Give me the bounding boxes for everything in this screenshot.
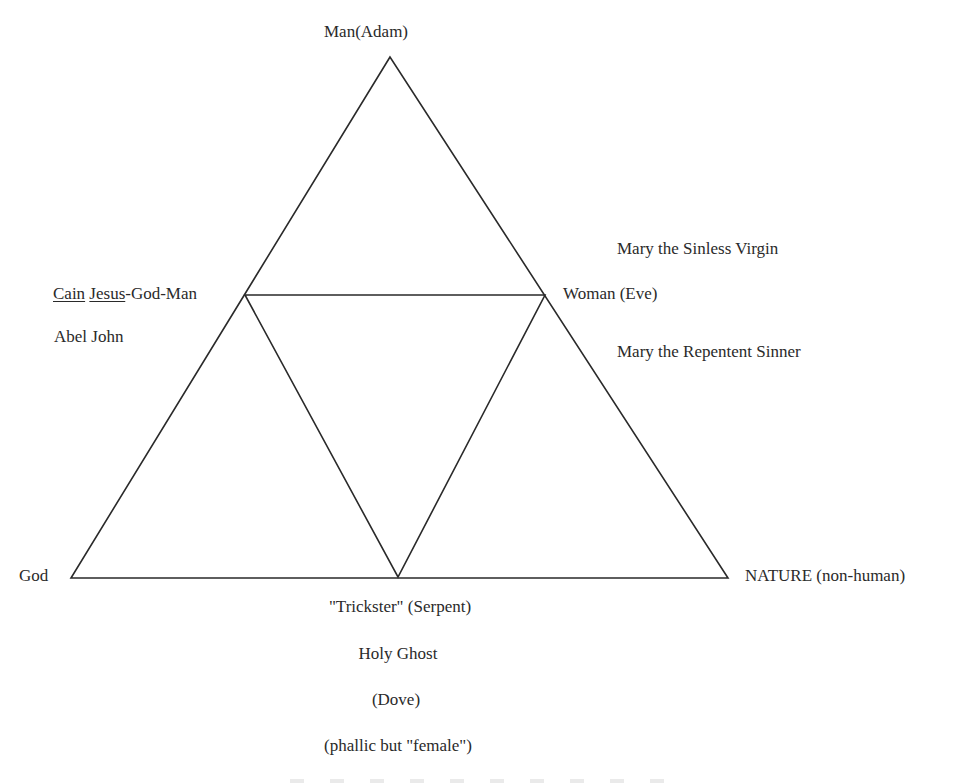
woman-eve-label: Woman (Eve) <box>563 284 657 304</box>
mary-repentent-sinner-label: Mary the Repentent Sinner <box>617 342 801 362</box>
phallic-female-label: (phallic but "female") <box>324 736 472 756</box>
jesus-label: Jesus <box>89 284 125 303</box>
triangle-diagram <box>0 0 953 783</box>
outer-triangle <box>71 57 728 578</box>
dove-label: (Dove) <box>372 690 420 710</box>
holy-ghost-label: Holy Ghost <box>359 644 438 664</box>
god-man-label: -God-Man <box>125 284 197 303</box>
abel-john-label: Abel John <box>54 327 123 347</box>
vertex-label-nature: NATURE (non-human) <box>745 566 905 586</box>
inner-triangle <box>245 295 545 577</box>
midpoint-label-left: Cain Jesus-God-Man <box>53 284 197 304</box>
cain-label: Cain <box>53 284 85 303</box>
cut-off-caption <box>290 779 670 783</box>
vertex-label-man-adam: Man(Adam) <box>324 22 408 42</box>
mary-sinless-virgin-label: Mary the Sinless Virgin <box>617 239 778 259</box>
trickster-serpent-label: "Trickster" (Serpent) <box>329 597 471 617</box>
vertex-label-god: God <box>19 566 48 586</box>
